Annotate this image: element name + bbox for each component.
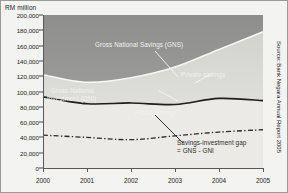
x-axis-tick-label: 2001 (80, 177, 94, 184)
x-axis-tick-mark (175, 168, 176, 172)
x-axis-tick-label: 2005 (256, 177, 270, 184)
chart-figure: RM million 200,000180,000160,000140,0001… (0, 0, 288, 193)
y-axis-tick-label: 20,000 (20, 149, 39, 156)
y-axis-tick-label: 180,000 (17, 27, 39, 34)
y-axis-line (43, 15, 44, 169)
source-text: Source: Bank Negara Annual Report 2005 (277, 40, 283, 152)
x-axis-tick-mark (87, 168, 88, 172)
y-axis-tick-label: 40,000 (20, 134, 39, 141)
x-axis-tick-label: 2004 (212, 177, 226, 184)
y-axis-tick-label: 120,000 (17, 73, 39, 80)
annotation-gap-line2: = GNS - GNI (177, 147, 214, 154)
x-axis-tick-label: 2003 (168, 177, 182, 184)
source-credit: Source: Bank Negara Annual Report 2005 (273, 1, 286, 192)
y-axis-tick-label: 80,000 (20, 103, 39, 110)
x-axis-tick-mark (43, 168, 44, 172)
x-axis-tick-label: 2002 (124, 177, 138, 184)
annotation-public-savings: Public savings (135, 109, 177, 116)
below-gni-fill (43, 97, 263, 168)
y-axis-tick-label: 160,000 (17, 42, 39, 49)
x-axis-tick-label: 2000 (36, 177, 50, 184)
x-axis-tick-mark (263, 168, 264, 172)
y-axis-tick-label: 200,000 (17, 12, 39, 19)
x-axis-line (43, 168, 263, 169)
x-axis-tick-mark (131, 168, 132, 172)
y-axis-tick-label: 100,000 (17, 88, 39, 95)
annotation-gni-line1: Gross National (51, 87, 94, 94)
y-axis-tick-label: 140,000 (17, 57, 39, 64)
annotation-gap-line1: Savings-investment gap (177, 139, 246, 146)
annotation-gni-line2: Investment (GNI) (47, 95, 97, 102)
annotation-gns: Gross National Savings (GNS) (95, 41, 183, 48)
annotation-private-savings: Private savings (181, 71, 225, 78)
x-axis-tick-mark (219, 168, 220, 172)
y-axis: 200,000180,000160,000140,000120,000100,0… (1, 1, 45, 193)
y-axis-tick-label: 60,000 (20, 119, 39, 126)
